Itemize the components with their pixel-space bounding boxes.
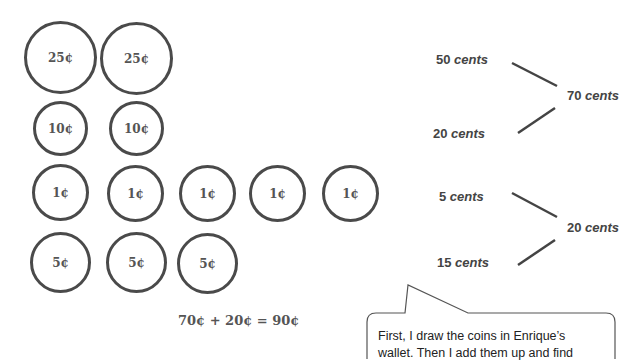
speech-bubble-text: First, I draw the coins in Enrique’s wal… xyxy=(378,328,614,362)
coin-label: 5¢ xyxy=(52,256,69,270)
coin-label: 25¢ xyxy=(48,51,73,65)
bond1-part1: 50 cents xyxy=(436,52,488,67)
bond1-part2: 20 cents xyxy=(433,126,485,141)
bond2-line-top xyxy=(512,193,557,217)
coin-dime: 10¢ xyxy=(109,101,164,156)
coin-penny: 1¢ xyxy=(322,165,379,222)
coin-quarter: 25¢ xyxy=(24,21,97,94)
coin-label: 1¢ xyxy=(269,187,286,201)
coin-penny: 1¢ xyxy=(107,165,164,222)
sum-equation: 70¢ + 20¢ = 90¢ xyxy=(178,313,299,328)
coin-label: 25¢ xyxy=(124,52,149,66)
coin-nickel: 5¢ xyxy=(177,233,238,294)
coin-label: 1¢ xyxy=(52,186,69,200)
coin-penny: 1¢ xyxy=(249,165,306,222)
coin-penny: 1¢ xyxy=(179,165,236,222)
bond1-line-top xyxy=(512,63,557,86)
coin-label: 1¢ xyxy=(127,187,144,201)
bond2-whole: 20 cents xyxy=(567,220,619,235)
coin-dime: 10¢ xyxy=(33,101,88,156)
bond2-part1: 5 cents xyxy=(439,189,484,204)
bond1-line-bottom xyxy=(518,108,555,133)
coin-label: 5¢ xyxy=(199,257,216,271)
callout-line-1: First, I draw the coins in Enrique’s xyxy=(378,328,614,345)
coin-nickel: 5¢ xyxy=(106,232,167,293)
callout-line-2: wallet. Then I add them up and find xyxy=(378,345,614,362)
coin-label: 10¢ xyxy=(124,122,149,136)
coin-penny: 1¢ xyxy=(32,164,89,221)
coin-nickel: 5¢ xyxy=(30,232,91,293)
coin-quarter: 25¢ xyxy=(100,22,173,95)
bond2-line-bottom xyxy=(518,240,555,265)
coin-label: 10¢ xyxy=(48,122,73,136)
coin-label: 5¢ xyxy=(128,256,145,270)
bond2-part2: 15 cents xyxy=(437,255,489,270)
bond1-whole: 70 cents xyxy=(567,88,619,103)
coin-label: 1¢ xyxy=(199,187,216,201)
coin-label: 1¢ xyxy=(342,187,359,201)
